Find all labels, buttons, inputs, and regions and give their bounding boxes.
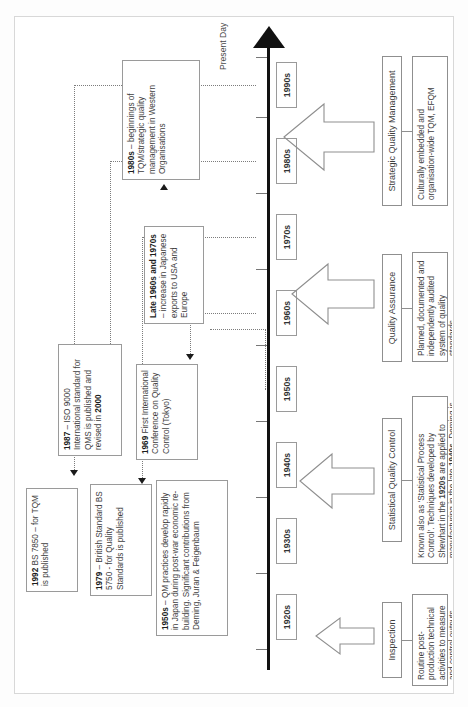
leader-line-1987-horizontal xyxy=(110,161,111,346)
timeline-arrowhead-icon xyxy=(253,26,285,48)
note-1980s-lead: 1980s xyxy=(127,151,136,174)
decade-chip-1950s[interactable]: 1950s xyxy=(276,366,297,412)
sqc-desc-1920s: 1920s xyxy=(438,476,447,499)
note-late-1960s-lead: Late 1960s and 1970s xyxy=(149,234,158,318)
note-late-1960s-text: – increase in Japanese exports to USA an… xyxy=(159,234,189,318)
timeline-axis xyxy=(267,40,270,670)
stage-label-inspection[interactable]: Inspection xyxy=(382,602,402,678)
bracket-qa xyxy=(402,308,412,309)
bracket-sqc xyxy=(402,480,412,481)
stage-arrow-sqc-icon xyxy=(298,452,376,510)
decade-chip-1940s[interactable]: 1940s xyxy=(276,442,297,488)
leader-line-1950s xyxy=(265,330,266,390)
sqc-desc-1940s: 1940s xyxy=(448,443,452,466)
note-1950s[interactable]: 1950s – QM practices develop rapidly in … xyxy=(156,480,228,636)
note-1987-lead: 1987 xyxy=(63,432,72,450)
stage-label-sqm[interactable]: Strategic Quality Management xyxy=(382,56,402,206)
leader-arrow-1980s-icon xyxy=(160,184,168,190)
note-1950s-lead: 1950s xyxy=(161,607,170,630)
stage-label-qa[interactable]: Quality Assurance xyxy=(382,254,402,362)
stage-arrow-inspection-icon xyxy=(314,616,376,656)
stage-desc-inspection[interactable]: Routine post-production technical activi… xyxy=(412,594,448,686)
note-late-1960s[interactable]: Late 1960s and 1970s – increase in Japan… xyxy=(144,226,204,324)
stage-desc-qa[interactable]: Planned, documented and independently au… xyxy=(412,252,448,362)
note-1992-lead: 1992 xyxy=(31,568,40,586)
note-1980s[interactable]: 1980s – beginnings of TQM/strategic qual… xyxy=(122,60,200,180)
axis-tick xyxy=(256,649,267,650)
leader-arrow-1969-icon xyxy=(186,354,194,360)
note-1987[interactable]: 1987 – ISO 9000 International standard f… xyxy=(58,344,122,456)
scanned-page: Present Day 1920s 1930s 1940s 1950s 1960… xyxy=(0,0,468,707)
timeline-diagram: Present Day 1920s 1930s 1940s 1950s 1960… xyxy=(14,16,452,692)
note-1969-lead: 1969 xyxy=(141,436,150,454)
axis-tick xyxy=(256,193,267,194)
bracket-sqm xyxy=(402,131,412,132)
decade-chip-1920s[interactable]: 1920s xyxy=(276,594,297,640)
diagram-rotation-wrapper: Present Day 1920s 1930s 1940s 1950s 1960… xyxy=(14,16,452,692)
axis-tick xyxy=(256,421,267,422)
axis-tick xyxy=(256,57,267,58)
present-day-label: Present Day xyxy=(219,16,229,70)
bracket-inspection xyxy=(402,640,412,641)
decade-chip-1930s[interactable]: 1930s xyxy=(276,518,297,564)
stage-arrow-qa-icon xyxy=(290,262,376,326)
axis-tick xyxy=(256,497,267,498)
note-1979[interactable]: 1979 – British Standard BS 5750 - for Qu… xyxy=(90,484,152,596)
note-1969[interactable]: 1969 First International Conference on Q… xyxy=(136,364,198,460)
stage-desc-sqc[interactable]: Known also as ‘Statistical Process Contr… xyxy=(412,396,448,564)
note-1992[interactable]: 1992 BS 7850 – for TQM is published xyxy=(26,488,78,592)
axis-tick xyxy=(256,117,267,118)
stage-label-sqc[interactable]: Statistical Quality Control xyxy=(382,418,402,542)
note-1979-lead: 1979 xyxy=(95,572,104,590)
stage-arrow-sqm-icon xyxy=(282,102,376,172)
axis-tick xyxy=(256,573,267,574)
leader-line-1950s-vertical xyxy=(210,329,266,330)
axis-tick xyxy=(256,269,267,270)
leader-arrow-1992-icon xyxy=(70,470,78,476)
stage-desc-sqm[interactable]: Culturally embedded and organisation-wid… xyxy=(412,56,448,206)
note-1987-tail: 2000 xyxy=(94,394,103,412)
decade-chip-1970s[interactable]: 1970s xyxy=(276,214,297,260)
